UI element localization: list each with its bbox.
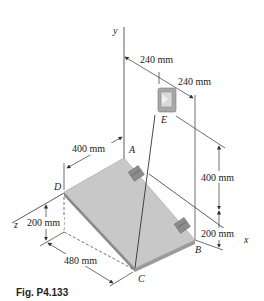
dim-label-480: 480 mm (64, 255, 97, 266)
dim-label-400-vertical: 400 mm (201, 172, 234, 183)
dim-label-200-vertical-right: 200 mm (201, 228, 234, 239)
point-label-A: A (128, 144, 136, 155)
dim-label-400-AD: 400 mm (72, 143, 105, 154)
point-label-D: D (53, 181, 62, 192)
ref-line-E (176, 116, 225, 148)
x-axis-label: x (243, 234, 249, 245)
z-axis-label: z (13, 219, 18, 230)
figure-caption: Fig. P4.133 (16, 287, 69, 298)
point-label-B: B (195, 244, 201, 255)
dim-ext-C (110, 272, 133, 286)
y-axis-label: y (112, 25, 118, 36)
diagram-canvas: y x z 240 mm 240 mm 400 mm 200 mm 400 mm (0, 0, 264, 301)
dim-label-240-left: 240 mm (140, 54, 173, 65)
dim-label-200-vertical-left: 200 mm (27, 217, 60, 228)
bracket-E (158, 88, 176, 112)
dim-ext-ground-left (40, 232, 64, 246)
point-label-E: E (160, 114, 167, 125)
point-label-C: C (138, 273, 145, 284)
dim-label-240-right: 240 mm (178, 76, 211, 87)
